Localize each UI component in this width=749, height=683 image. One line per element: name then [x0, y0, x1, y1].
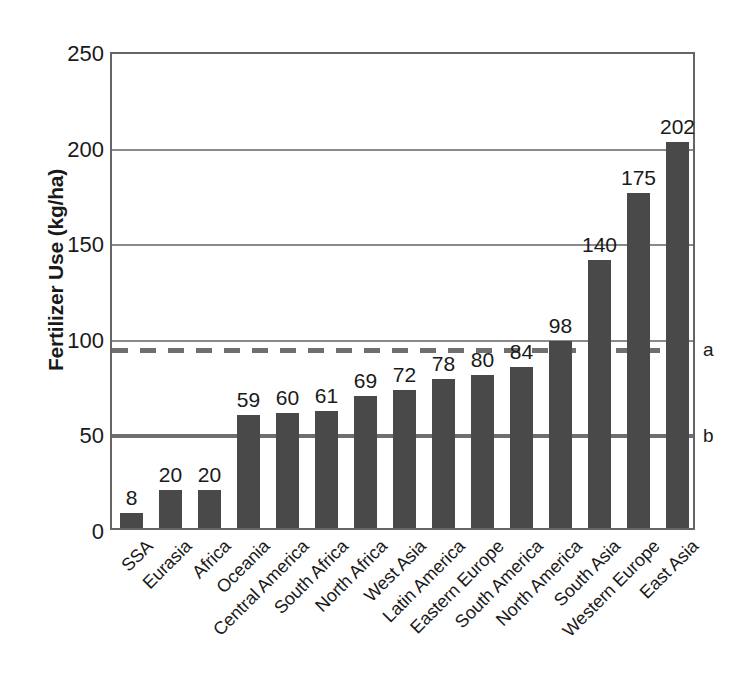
bar-value-label: 78	[432, 352, 455, 376]
bar-value-label: 60	[276, 386, 299, 410]
bar-value-label: 202	[660, 115, 695, 139]
bar-value-label: 59	[237, 388, 260, 412]
bar-value-label: 8	[126, 486, 138, 510]
bar-value-label: 20	[198, 463, 221, 487]
bar: 8	[120, 513, 143, 528]
bar: 61	[315, 411, 338, 528]
reference-line-label-a: a	[703, 339, 714, 361]
y-tick-label: 0	[92, 519, 104, 545]
bar: 202	[666, 142, 689, 528]
gridline	[112, 149, 693, 151]
bar: 98	[549, 341, 572, 528]
y-tick-label: 150	[67, 232, 104, 258]
bar-value-label: 80	[471, 348, 494, 372]
bar-value-label: 69	[354, 369, 377, 393]
bar: 59	[237, 415, 260, 528]
bar: 20	[159, 490, 182, 528]
plot-area: 050100150200250 ab 820205960616972788084…	[110, 52, 695, 530]
bar-value-label: 72	[393, 363, 416, 387]
bar-value-label: 61	[315, 384, 338, 408]
bar-value-label: 140	[582, 233, 617, 257]
y-axis-title: Fertilizer Use (kg/ha)	[36, 30, 76, 510]
bar: 60	[276, 413, 299, 528]
bar: 78	[432, 379, 455, 528]
y-tick-label: 100	[67, 328, 104, 354]
bar: 72	[393, 390, 416, 528]
bar-value-label: 175	[621, 166, 656, 190]
bar: 20	[198, 490, 221, 528]
bar: 140	[588, 260, 611, 528]
bar-value-label: 20	[159, 463, 182, 487]
bar: 84	[510, 367, 533, 528]
fertilizer-use-bar-chart: Fertilizer Use (kg/ha) 050100150200250 a…	[0, 0, 749, 683]
bar-value-label: 98	[549, 314, 572, 338]
bar: 69	[354, 396, 377, 528]
y-tick-label: 50	[80, 423, 104, 449]
y-tick-label: 200	[67, 137, 104, 163]
bar: 80	[471, 375, 494, 528]
y-tick-label: 250	[67, 41, 104, 67]
reference-line-label-b: b	[703, 425, 714, 447]
bar-value-label: 84	[510, 340, 533, 364]
bar: 175	[627, 193, 650, 528]
